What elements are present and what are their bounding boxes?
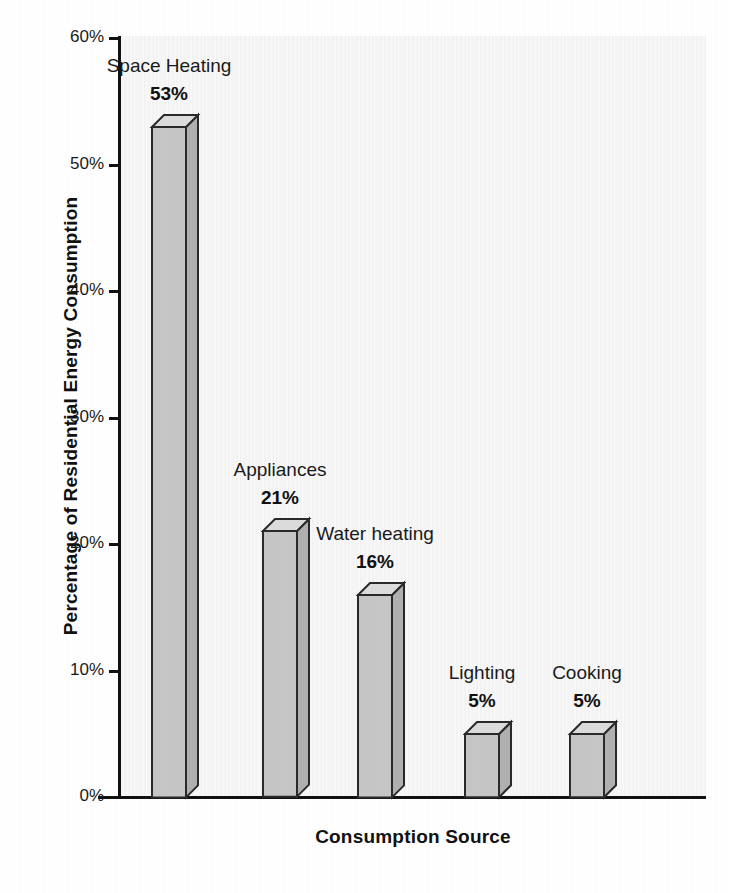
- bar-value-label: 5%: [540, 690, 634, 712]
- y-axis-tick-mark: [109, 670, 120, 673]
- x-axis-title: Consumption Source: [120, 826, 706, 848]
- y-axis-tick-mark: [109, 290, 120, 293]
- bar-column[interactable]: [463, 720, 513, 799]
- y-axis-tick-mark: [109, 543, 120, 546]
- y-axis-tick-mark: [109, 37, 120, 40]
- y-axis-tick-mark: [109, 417, 120, 420]
- bar-column[interactable]: [261, 517, 311, 799]
- bar-category-label: Space Heating: [72, 55, 266, 77]
- y-axis-tick-label: 0%: [34, 786, 104, 806]
- y-axis-tick-mark: [109, 796, 120, 799]
- bar-value-label: 53%: [122, 83, 216, 105]
- bar-column[interactable]: [356, 581, 406, 799]
- bar-column[interactable]: [150, 113, 200, 799]
- bar-category-label: Water heating: [278, 523, 472, 545]
- bar-value-label: 16%: [328, 551, 422, 573]
- y-axis-title: Percentage of Residential Energy Consump…: [60, 66, 82, 766]
- bar-category-label: Cooking: [490, 662, 684, 684]
- bar-value-label: 5%: [435, 690, 529, 712]
- y-axis-tick-label: 60%: [34, 27, 104, 47]
- bar-category-label: Appliances: [183, 459, 377, 481]
- bar-column[interactable]: [568, 720, 618, 799]
- y-axis-tick-mark: [109, 164, 120, 167]
- bar-value-label: 21%: [233, 487, 327, 509]
- bar-chart: 60%50%40%30%20%10%0% 53%Space Heating21%…: [0, 0, 729, 893]
